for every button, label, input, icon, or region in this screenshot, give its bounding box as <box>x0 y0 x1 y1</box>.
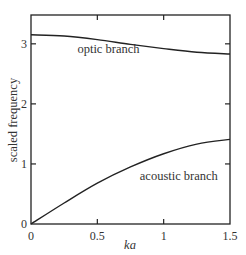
x-axis-label: ka <box>124 238 136 252</box>
y-tick-label: 2 <box>21 97 27 111</box>
acoustic-branch-label: acoustic branch <box>140 169 219 183</box>
y-axis-label: scaled frequency <box>6 77 20 162</box>
x-tick-label: 1 <box>161 229 167 243</box>
dispersion-chart: 00.511.50123 optic branchacoustic branch… <box>0 0 246 255</box>
y-tick-label: 1 <box>21 157 27 171</box>
series-annotations: optic branchacoustic branch <box>77 42 218 183</box>
x-tick-label: 1.5 <box>223 229 238 243</box>
tick-labels: 00.511.50123 <box>21 37 238 243</box>
x-tick-label: 0 <box>28 229 34 243</box>
y-tick-label: 3 <box>21 37 27 51</box>
y-tick-label: 0 <box>21 217 27 231</box>
optic-branch-label: optic branch <box>77 42 140 56</box>
x-tick-label: 0.5 <box>90 229 105 243</box>
data-curves <box>31 35 230 224</box>
